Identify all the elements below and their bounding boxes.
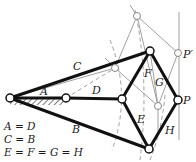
ghost-joint-left (112, 65, 119, 72)
ground-pivot (6, 94, 14, 102)
joint-d-e-f (118, 95, 126, 103)
label-g: G (155, 76, 164, 89)
equation-2: C = B (4, 133, 36, 145)
equation-1: A = D (3, 120, 36, 132)
label-h: H (164, 124, 175, 137)
label-d: D (91, 84, 101, 97)
joint-b-e-h (145, 145, 153, 153)
ghost-joint-p-prime (175, 50, 182, 57)
label-p: P (182, 94, 191, 107)
ghost-joint-center (155, 103, 162, 110)
label-e: E (136, 113, 145, 126)
joint-p (174, 96, 182, 104)
label-c: C (73, 60, 82, 73)
label-f: F (143, 67, 152, 80)
link-d (66, 98, 122, 99)
equation-3: E = F = G = H (3, 146, 84, 158)
label-p-prime: P′ (182, 48, 193, 61)
joint-a-d (62, 94, 70, 102)
joint-c-f-g (146, 47, 154, 55)
label-b: B (71, 123, 80, 136)
ghost-joint-top (134, 13, 141, 20)
link-c (10, 51, 150, 98)
linkage-diagram: C A D B F G E H P P′ A = D C = B E = F =… (0, 0, 196, 162)
ghost-link-g (137, 16, 178, 53)
label-a: A (39, 85, 48, 98)
